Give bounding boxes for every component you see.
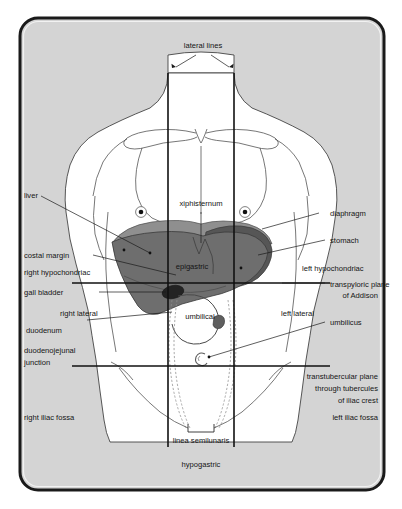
label-transtubercular-3: of iliac crest xyxy=(338,396,379,405)
leader-dot-umbilicus xyxy=(208,356,211,359)
label-gall-bladder: gall bladder xyxy=(24,288,64,297)
nipple-dot-right xyxy=(243,210,248,215)
label-transpyloric-2: of Addison xyxy=(343,291,378,300)
neck-block xyxy=(168,52,234,73)
label-stomach: stomach xyxy=(330,236,359,245)
label-right-iliac-fossa: right iliac fossa xyxy=(24,413,75,422)
label-duodenum: duodenum xyxy=(26,326,62,335)
label-diaphragm: diaphragm xyxy=(330,209,366,218)
label-lateral-lines: lateral lines xyxy=(184,41,223,50)
anatomy-figure: lateral lines liver costal margin right … xyxy=(0,0,402,509)
label-transtubercular-2: through tubercules xyxy=(315,384,378,393)
marker-left-hypochondriac xyxy=(240,267,243,270)
leader-dot-liver xyxy=(149,252,152,255)
label-right-hypochondriac: right hypochondriac xyxy=(24,268,90,277)
label-linea-semilunaris: linea semilunaris xyxy=(173,436,230,445)
label-left-lateral: left lateral xyxy=(281,309,314,318)
label-costal-margin: costal margin xyxy=(24,251,69,260)
label-left-hypochondriac: left hypochondriac xyxy=(302,264,364,273)
label-duodenojejunal-1: duodenojejunal xyxy=(24,346,76,355)
nipple-dot-left xyxy=(139,210,144,215)
label-transpyloric-1: transpyloric plane xyxy=(330,280,390,289)
label-liver: liver xyxy=(24,191,38,200)
label-umbilical: umbilical xyxy=(185,312,215,321)
label-left-iliac-fossa: left iliac fossa xyxy=(332,413,378,422)
label-right-lateral: right lateral xyxy=(60,309,98,318)
label-transtubercular-1: transtubercular plane xyxy=(307,372,378,381)
marker-costal-left xyxy=(123,249,126,252)
label-umbilicus: umbilicus xyxy=(330,318,362,327)
label-epigastric: epigastric xyxy=(176,262,209,271)
label-xiphisternum: xiphisternum xyxy=(179,199,222,208)
label-hypogastric: hypogastric xyxy=(182,460,221,469)
label-duodenojejunal-2: junction xyxy=(23,358,50,367)
